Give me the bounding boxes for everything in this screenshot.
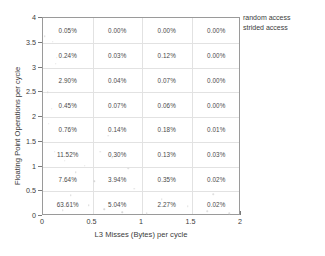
- scatter-point: [108, 135, 110, 137]
- scatter-point: [64, 160, 66, 162]
- gridline-horizontal: [43, 142, 239, 143]
- y-axis-ticklabel: 0.5: [26, 186, 36, 195]
- x-axis-ticklabel: 0.5: [87, 217, 97, 226]
- scatter-point: [52, 41, 54, 43]
- legend-entry: random access: [243, 13, 290, 23]
- scatter-point: [121, 211, 123, 213]
- cell-percentage-label: 0.24%: [59, 52, 77, 59]
- x-axis-ticklabel: 0: [40, 217, 44, 226]
- scatter-point: [88, 204, 90, 206]
- y-axis-ticklabel: 4: [32, 13, 36, 22]
- scatter-point: [55, 63, 57, 65]
- scatter-point: [133, 188, 135, 190]
- scatter-point: [54, 151, 56, 153]
- cell-percentage-label: 0.18%: [158, 126, 176, 133]
- x-axis-ticklabel: 1: [139, 217, 143, 226]
- cell-percentage-label: 0.13%: [158, 151, 176, 158]
- cell-percentage-label: 11.52%: [57, 151, 79, 158]
- cell-percentage-label: 0.00%: [207, 101, 225, 108]
- scatter-point: [187, 205, 189, 207]
- gridline-horizontal: [43, 117, 239, 118]
- y-axis-label: Floating Point Operations per cycle: [13, 67, 22, 185]
- gridline-vertical: [192, 18, 193, 214]
- cell-percentage-label: 0.03%: [108, 52, 126, 59]
- scatter-point: [127, 168, 129, 170]
- y-axis-tick: [38, 215, 42, 216]
- cell-percentage-label: 0.04%: [108, 76, 126, 83]
- cell-percentage-label: 0.02%: [207, 200, 225, 207]
- gridline-vertical: [142, 18, 143, 214]
- plot-area: 0.05%0.00%0.00%0.00%0.24%0.03%0.12%0.00%…: [42, 17, 240, 215]
- cell-percentage-label: 7.64%: [59, 175, 77, 182]
- cell-percentage-label: 0.35%: [158, 175, 176, 182]
- legend-entry: strided access: [243, 23, 290, 33]
- y-axis-ticklabel: 3.5: [26, 37, 36, 46]
- y-axis-ticklabel: 1.5: [26, 136, 36, 145]
- cell-percentage-label: 63.61%: [57, 200, 79, 207]
- cell-percentage-label: 5.04%: [108, 200, 126, 207]
- scatter-point: [146, 212, 148, 214]
- cell-percentage-label: 0.07%: [108, 101, 126, 108]
- y-axis-ticklabel: 2.5: [26, 87, 36, 96]
- figure: 00.511.522.533.54 00.511.52 0.05%0.00%0.…: [0, 0, 325, 256]
- gridline-horizontal: [43, 43, 239, 44]
- cell-percentage-label: 0.02%: [207, 175, 225, 182]
- gridline-vertical: [93, 18, 94, 214]
- x-axis-label: L3 Misses (Bytes) per cycle: [42, 230, 240, 239]
- cell-percentage-label: 0.45%: [59, 101, 77, 108]
- cell-percentage-label: 0.12%: [158, 52, 176, 59]
- cell-percentage-label: 0.30%: [108, 151, 126, 158]
- cell-percentage-label: 0.03%: [207, 151, 225, 158]
- scatter-point: [104, 208, 106, 210]
- gridline-horizontal: [43, 191, 239, 192]
- scatter-point: [56, 57, 58, 59]
- y-axis-ticklabel: 2: [32, 112, 36, 121]
- x-axis-ticklabel: 2: [238, 217, 242, 226]
- scatter-point: [48, 123, 50, 125]
- cell-percentage-label: 0.00%: [158, 27, 176, 34]
- scatter-point: [228, 212, 230, 214]
- x-axis-tick: [240, 211, 241, 215]
- scatter-point: [51, 108, 53, 110]
- cell-percentage-label: 0.05%: [59, 27, 77, 34]
- cell-percentage-label: 0.00%: [207, 76, 225, 83]
- x-axis-ticklabel: 1.5: [186, 217, 196, 226]
- scatter-point: [70, 194, 72, 196]
- scatter-point: [213, 193, 215, 195]
- gridline-horizontal: [43, 167, 239, 168]
- legend: random accessstrided access: [243, 13, 290, 33]
- y-axis-ticklabel: 1: [32, 161, 36, 170]
- scatter-point: [84, 165, 86, 167]
- cell-percentage-label: 2.90%: [59, 76, 77, 83]
- gridline-horizontal: [43, 92, 239, 93]
- gridline-horizontal: [43, 68, 239, 69]
- scatter-point: [100, 151, 102, 153]
- cell-percentage-label: 0.00%: [207, 27, 225, 34]
- cell-percentage-label: 0.00%: [207, 52, 225, 59]
- scatter-point: [75, 172, 77, 174]
- scatter-point: [44, 36, 46, 38]
- cell-percentage-label: 0.00%: [108, 27, 126, 34]
- scatter-point: [207, 210, 209, 212]
- scatter-point: [47, 92, 49, 94]
- y-axis-ticklabel: 0: [32, 211, 36, 220]
- cell-percentage-label: 0.06%: [158, 101, 176, 108]
- y-axis-ticklabel: 3: [32, 62, 36, 71]
- cell-percentage-label: 3.94%: [108, 175, 126, 182]
- cell-percentage-label: 2.27%: [158, 200, 176, 207]
- cell-percentage-label: 0.14%: [108, 126, 126, 133]
- cell-percentage-label: 0.07%: [158, 76, 176, 83]
- cell-percentage-label: 0.01%: [207, 126, 225, 133]
- scatter-point: [62, 209, 64, 211]
- cell-percentage-label: 0.76%: [59, 126, 77, 133]
- scatter-point: [94, 181, 96, 183]
